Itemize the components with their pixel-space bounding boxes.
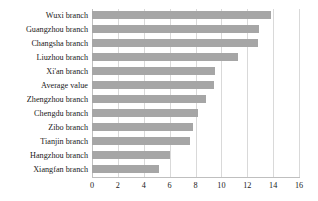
bar-row xyxy=(92,11,299,19)
x-axis-tick-labels: 0246810121416 xyxy=(92,180,299,194)
bar xyxy=(92,39,258,47)
x-tick-label: 6 xyxy=(168,180,172,191)
bar-row xyxy=(92,165,299,173)
bar-row xyxy=(92,151,299,159)
bar-row xyxy=(92,123,299,131)
plot-area xyxy=(92,9,299,177)
bar-row xyxy=(92,81,299,89)
bar-row xyxy=(92,39,299,47)
bar xyxy=(92,95,206,103)
x-axis-line xyxy=(92,177,300,178)
bar xyxy=(92,25,259,33)
category-label: Zhengzhou branch xyxy=(0,95,88,104)
category-label: Tianjin branch xyxy=(0,137,88,146)
bar xyxy=(92,165,159,173)
bars-group xyxy=(92,9,299,177)
category-label: Wuxi branch xyxy=(0,11,88,20)
category-label: Xi'an branch xyxy=(0,67,88,76)
category-label: Liuzhou branch xyxy=(0,53,88,62)
category-label: Zibo branch xyxy=(0,123,88,132)
bar-row xyxy=(92,53,299,61)
x-tick-label: 2 xyxy=(116,180,120,191)
x-tick-label: 12 xyxy=(243,180,251,191)
bar xyxy=(92,109,198,117)
bar xyxy=(92,123,193,131)
x-tick-label: 4 xyxy=(142,180,146,191)
bar-row xyxy=(92,95,299,103)
gridline-16 xyxy=(299,9,300,177)
category-label: Hangzhou branch xyxy=(0,151,88,160)
bar xyxy=(92,151,170,159)
bar-row xyxy=(92,137,299,145)
bar xyxy=(92,11,271,19)
category-label: Average value xyxy=(0,81,88,90)
bar-row xyxy=(92,25,299,33)
bar xyxy=(92,67,215,75)
category-label: Chengdu branch xyxy=(0,109,88,118)
bar xyxy=(92,81,214,89)
x-tick-label: 14 xyxy=(269,180,277,191)
bar-row xyxy=(92,67,299,75)
bar xyxy=(92,137,190,145)
x-tick-label: 16 xyxy=(295,180,303,191)
category-label: Guangzhou branch xyxy=(0,25,88,34)
bar-chart: Wuxi branchGuangzhou branchChangsha bran… xyxy=(0,0,318,201)
bar-row xyxy=(92,109,299,117)
bar xyxy=(92,53,238,61)
x-tick-label: 10 xyxy=(217,180,225,191)
x-tick-label: 8 xyxy=(193,180,197,191)
category-axis-labels: Wuxi branchGuangzhou branchChangsha bran… xyxy=(0,9,88,177)
category-label: Xiangfan branch xyxy=(0,165,88,174)
category-label: Changsha branch xyxy=(0,39,88,48)
x-tick-label: 0 xyxy=(90,180,94,191)
